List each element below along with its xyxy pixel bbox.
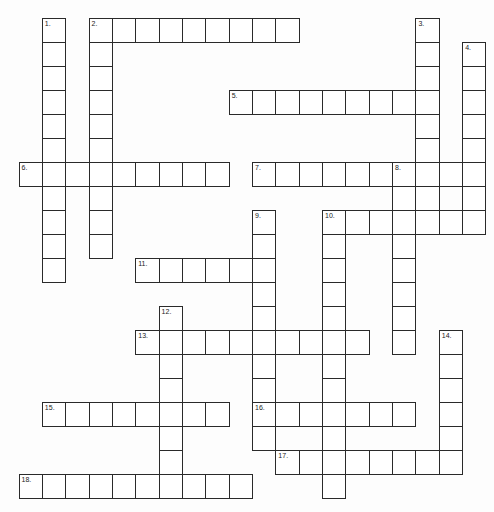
crossword-cell[interactable]: 17.: [275, 450, 299, 475]
crossword-cell[interactable]: [159, 426, 183, 451]
crossword-cell[interactable]: [229, 258, 253, 283]
crossword-cell[interactable]: [392, 186, 416, 211]
crossword-cell[interactable]: [462, 90, 486, 115]
crossword-cell[interactable]: [275, 90, 299, 115]
crossword-cell[interactable]: [159, 258, 183, 283]
crossword-cell[interactable]: [89, 162, 113, 187]
crossword-cell[interactable]: [159, 18, 183, 43]
crossword-cell[interactable]: [89, 402, 113, 427]
crossword-cell[interactable]: [275, 330, 299, 355]
crossword-cell[interactable]: [205, 402, 229, 427]
crossword-cell[interactable]: [135, 474, 159, 499]
crossword-cell[interactable]: [392, 330, 416, 355]
crossword-cell[interactable]: [42, 234, 66, 259]
crossword-cell[interactable]: [299, 162, 323, 187]
crossword-cell[interactable]: [345, 210, 369, 235]
crossword-cell[interactable]: [89, 210, 113, 235]
crossword-cell[interactable]: [322, 162, 346, 187]
crossword-cell[interactable]: 3.: [415, 18, 439, 43]
crossword-cell[interactable]: [439, 450, 463, 475]
crossword-cell[interactable]: [205, 162, 229, 187]
crossword-cell[interactable]: [65, 402, 89, 427]
crossword-cell[interactable]: [182, 258, 206, 283]
crossword-cell[interactable]: [229, 330, 253, 355]
crossword-cell[interactable]: [439, 354, 463, 379]
crossword-cell[interactable]: [439, 162, 463, 187]
crossword-cell[interactable]: [369, 402, 393, 427]
crossword-cell[interactable]: [112, 402, 136, 427]
crossword-cell[interactable]: [159, 378, 183, 403]
crossword-cell[interactable]: [439, 210, 463, 235]
crossword-cell[interactable]: [135, 162, 159, 187]
crossword-cell[interactable]: [159, 330, 183, 355]
crossword-cell[interactable]: [345, 162, 369, 187]
crossword-cell[interactable]: [462, 186, 486, 211]
crossword-cell[interactable]: [415, 162, 439, 187]
crossword-cell[interactable]: [369, 450, 393, 475]
crossword-cell[interactable]: [439, 378, 463, 403]
crossword-cell[interactable]: [299, 90, 323, 115]
crossword-cell[interactable]: [322, 354, 346, 379]
crossword-cell[interactable]: 16.: [252, 402, 276, 427]
crossword-cell[interactable]: [392, 282, 416, 307]
crossword-cell[interactable]: [159, 402, 183, 427]
crossword-cell[interactable]: [182, 474, 206, 499]
crossword-cell[interactable]: [42, 162, 66, 187]
crossword-cell[interactable]: [135, 402, 159, 427]
crossword-cell[interactable]: [89, 42, 113, 67]
crossword-cell[interactable]: [112, 474, 136, 499]
crossword-cell[interactable]: [205, 330, 229, 355]
crossword-cell[interactable]: [322, 426, 346, 451]
crossword-cell[interactable]: 2.: [89, 18, 113, 43]
crossword-cell[interactable]: [65, 162, 89, 187]
crossword-cell[interactable]: [345, 402, 369, 427]
crossword-cell[interactable]: [299, 330, 323, 355]
crossword-cell[interactable]: [89, 186, 113, 211]
crossword-cell[interactable]: [252, 378, 276, 403]
crossword-cell[interactable]: [345, 90, 369, 115]
crossword-cell[interactable]: [462, 138, 486, 163]
crossword-cell[interactable]: [42, 474, 66, 499]
crossword-cell[interactable]: 5.: [229, 90, 253, 115]
crossword-cell[interactable]: [229, 18, 253, 43]
crossword-cell[interactable]: 10.: [322, 210, 346, 235]
crossword-cell[interactable]: [415, 138, 439, 163]
crossword-cell[interactable]: [159, 450, 183, 475]
crossword-cell[interactable]: [415, 210, 439, 235]
crossword-cell[interactable]: [182, 330, 206, 355]
crossword-cell[interactable]: [392, 90, 416, 115]
crossword-cell[interactable]: [439, 402, 463, 427]
crossword-cell[interactable]: [252, 90, 276, 115]
crossword-cell[interactable]: [322, 306, 346, 331]
crossword-cell[interactable]: [42, 138, 66, 163]
crossword-cell[interactable]: [182, 18, 206, 43]
crossword-cell[interactable]: [252, 354, 276, 379]
crossword-cell[interactable]: [42, 114, 66, 139]
crossword-cell[interactable]: [392, 234, 416, 259]
crossword-cell[interactable]: [42, 186, 66, 211]
crossword-cell[interactable]: 6.: [19, 162, 43, 187]
crossword-cell[interactable]: [89, 66, 113, 91]
crossword-cell[interactable]: [42, 66, 66, 91]
crossword-cell[interactable]: [159, 162, 183, 187]
crossword-cell[interactable]: [182, 162, 206, 187]
crossword-cell[interactable]: [369, 162, 393, 187]
crossword-cell[interactable]: [462, 210, 486, 235]
crossword-cell[interactable]: [415, 42, 439, 67]
crossword-cell[interactable]: [89, 234, 113, 259]
crossword-cell[interactable]: 4.: [462, 42, 486, 67]
crossword-cell[interactable]: [392, 402, 416, 427]
crossword-cell[interactable]: [322, 330, 346, 355]
crossword-cell[interactable]: 15.: [42, 402, 66, 427]
crossword-cell[interactable]: [159, 474, 183, 499]
crossword-cell[interactable]: [252, 258, 276, 283]
crossword-cell[interactable]: [392, 450, 416, 475]
crossword-cell[interactable]: [42, 210, 66, 235]
crossword-cell[interactable]: [322, 282, 346, 307]
crossword-cell[interactable]: [369, 210, 393, 235]
crossword-cell[interactable]: [345, 450, 369, 475]
crossword-cell[interactable]: [89, 114, 113, 139]
crossword-cell[interactable]: [89, 474, 113, 499]
crossword-cell[interactable]: [42, 90, 66, 115]
crossword-cell[interactable]: 8.: [392, 162, 416, 187]
